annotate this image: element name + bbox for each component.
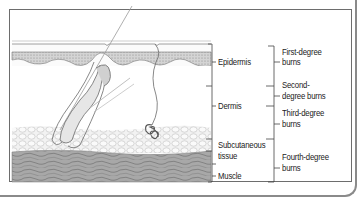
burn-brackets xyxy=(266,46,280,182)
subcutaneous-layer xyxy=(12,126,211,153)
label-first-degree-line2: burns xyxy=(282,57,301,67)
skin-cross-section-illustration xyxy=(0,0,361,207)
label-fourth-degree-line2: burns xyxy=(282,163,301,173)
label-dermis: Dermis xyxy=(218,101,241,111)
label-first-degree-line1: First-degree xyxy=(282,47,322,57)
label-subcutaneous-line1: Subcutaneous xyxy=(218,140,265,150)
muscle-layer xyxy=(12,150,211,182)
label-fourth-degree-line1: Fourth-degree xyxy=(282,152,329,162)
label-third-degree-line1: Third-degree xyxy=(282,108,324,118)
epidermis-layer xyxy=(12,41,211,68)
label-epidermis: Epidermis xyxy=(218,57,251,67)
label-third-degree-line2: burns xyxy=(282,119,301,129)
label-muscle: Muscle xyxy=(218,171,241,181)
label-second-degree-line2: degree burns xyxy=(282,91,326,101)
label-subcutaneous-line2: tissue xyxy=(218,151,237,161)
label-second-degree-line1: Second- xyxy=(282,80,310,90)
